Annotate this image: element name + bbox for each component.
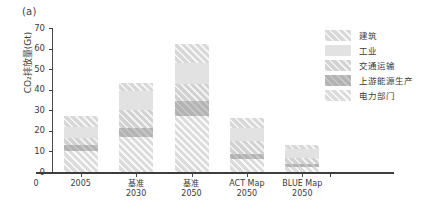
bar-segment-transport[interactable] bbox=[175, 84, 209, 101]
legend-item[interactable]: 交通运输 bbox=[325, 58, 433, 72]
bar-segment-transport[interactable] bbox=[285, 158, 319, 164]
legend-item[interactable]: 上游能源生产 bbox=[325, 73, 433, 87]
x-axis-label: 基准2030 bbox=[126, 179, 146, 198]
x-axis-label: BLUE Map2050 bbox=[282, 179, 322, 198]
y-tick-label: 70 bbox=[0, 23, 45, 33]
y-tick-label: 30 bbox=[0, 105, 45, 115]
bar-segment-power[interactable] bbox=[119, 137, 153, 172]
y-tick-label: 20 bbox=[0, 125, 45, 135]
bar-segment-power[interactable] bbox=[230, 159, 264, 172]
bar-segment-upstream[interactable] bbox=[175, 101, 209, 116]
bar-segment-industry[interactable] bbox=[64, 127, 98, 138]
legend: 建筑工业交通运输上游能源生产电力部门 bbox=[325, 28, 433, 103]
x-axis-label: 2005 bbox=[71, 179, 91, 189]
x-axis-label: 基准2050 bbox=[181, 179, 201, 198]
bar-segment-industry[interactable] bbox=[230, 128, 264, 141]
y-tick-label: 60 bbox=[0, 43, 45, 53]
x-label-line1: 2005 bbox=[71, 179, 91, 188]
y-tick-label: 0 bbox=[0, 167, 45, 177]
x-label-line2: 2030 bbox=[126, 189, 146, 199]
y-tick-label: 50 bbox=[0, 64, 45, 74]
x-tick-mark bbox=[81, 172, 82, 177]
bar-stack[interactable] bbox=[64, 28, 98, 172]
bar-segment-buildings[interactable] bbox=[175, 44, 209, 63]
bar-stack[interactable] bbox=[230, 28, 264, 172]
legend-label: 上游能源生产 bbox=[359, 74, 413, 86]
legend-swatch-upstream bbox=[325, 75, 351, 86]
x-label-line1: ACT Map bbox=[229, 179, 264, 188]
bar-segment-buildings[interactable] bbox=[119, 83, 153, 91]
bar-stack[interactable] bbox=[175, 28, 209, 172]
bar-segment-buildings[interactable] bbox=[64, 116, 98, 126]
x-label-line1: 基准 bbox=[128, 179, 144, 188]
legend-swatch-power bbox=[325, 90, 351, 101]
bar-segment-industry[interactable] bbox=[119, 91, 153, 111]
bar-stack[interactable] bbox=[119, 28, 153, 172]
bar-segment-upstream[interactable] bbox=[230, 154, 264, 159]
origin-label: 0 bbox=[33, 179, 38, 188]
bar-segment-industry[interactable] bbox=[175, 63, 209, 84]
x-axis-label: ACT Map2050 bbox=[229, 179, 264, 198]
x-tick-mark bbox=[136, 172, 137, 177]
legend-swatch-transport bbox=[325, 60, 351, 71]
bar-segment-power[interactable] bbox=[64, 151, 98, 172]
bar-segment-transport[interactable] bbox=[230, 141, 264, 153]
x-tick-mark bbox=[192, 172, 193, 177]
bar-segment-buildings[interactable] bbox=[230, 118, 264, 128]
legend-item[interactable]: 电力部门 bbox=[325, 88, 433, 102]
x-axis-line bbox=[36, 172, 394, 174]
legend-label: 电力部门 bbox=[359, 89, 395, 101]
y-tick-label: 40 bbox=[0, 84, 45, 94]
x-label-line2: 2050 bbox=[181, 189, 201, 199]
plot-area bbox=[53, 28, 330, 172]
x-label-line2: 2050 bbox=[229, 189, 264, 199]
bar-stack[interactable] bbox=[285, 28, 319, 172]
bar-segment-upstream[interactable] bbox=[119, 128, 153, 137]
bar-segment-buildings[interactable] bbox=[285, 145, 319, 149]
bar-segment-upstream[interactable] bbox=[64, 145, 98, 151]
legend-label: 工业 bbox=[359, 44, 377, 56]
x-label-line1: 基准 bbox=[183, 179, 199, 188]
y-tick-mark bbox=[49, 172, 53, 173]
legend-swatch-industry bbox=[325, 45, 351, 56]
bar-segment-industry[interactable] bbox=[285, 149, 319, 157]
y-tick-label: 10 bbox=[0, 146, 45, 156]
x-label-line2: 2050 bbox=[282, 189, 322, 199]
legend-label: 交通运输 bbox=[359, 59, 395, 71]
bar-segment-transport[interactable] bbox=[119, 110, 153, 127]
bar-segment-upstream[interactable] bbox=[285, 164, 319, 167]
chart-figure: (a) CO₂排放量(Gt) 010203040506070 0 2005基准2… bbox=[0, 0, 435, 214]
legend-label: 建筑 bbox=[359, 29, 377, 41]
x-label-line1: BLUE Map bbox=[282, 179, 322, 188]
bar-segment-power[interactable] bbox=[175, 116, 209, 172]
legend-item[interactable]: 工业 bbox=[325, 43, 433, 57]
x-tick-mark-end bbox=[330, 172, 331, 177]
x-tick-mark bbox=[302, 172, 303, 177]
bar-segment-transport[interactable] bbox=[64, 138, 98, 145]
x-tick-mark bbox=[247, 172, 248, 177]
legend-swatch-buildings bbox=[325, 30, 351, 41]
legend-item[interactable]: 建筑 bbox=[325, 28, 433, 42]
